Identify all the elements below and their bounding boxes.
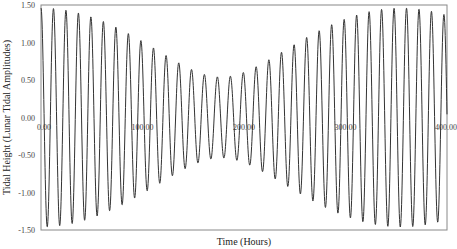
y-tick-label: 0.50 xyxy=(21,76,35,85)
x-tick-label: 200.00 xyxy=(233,123,255,132)
y-axis-label: Tidal Height (Lunar Tidal Amplitudes) xyxy=(1,40,13,195)
y-tick-label: 0.00 xyxy=(21,114,35,123)
y-tick-label: -0.50 xyxy=(18,151,35,160)
y-tick-label: 1.00 xyxy=(21,39,35,48)
x-axis-label: Time (Hours) xyxy=(217,236,271,248)
y-tick-label: 1.50 xyxy=(21,1,35,10)
series-line-tidal-height xyxy=(41,8,447,227)
y-tick-label: -1.50 xyxy=(18,226,35,235)
y-tick-label: -1.00 xyxy=(18,189,35,198)
tidal-chart: -1.50-1.00-0.500.000.501.001.50 0.00100.… xyxy=(0,0,457,249)
x-tick-label: 400.00 xyxy=(435,123,457,132)
